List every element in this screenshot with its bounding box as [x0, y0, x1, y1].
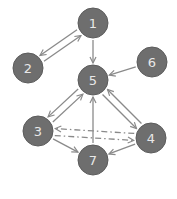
edge-5-to-4: [103, 94, 137, 128]
node-3[interactable]: 3: [23, 116, 53, 146]
nodes-layer: 1256347: [13, 8, 167, 175]
node-label: 4: [147, 131, 155, 146]
node-label: 6: [148, 55, 156, 70]
edge-4-to-7: [109, 144, 135, 154]
edge-3-to-4: [55, 136, 134, 141]
node-5[interactable]: 5: [78, 65, 108, 95]
edge-6-to-5: [109, 67, 135, 75]
node-1[interactable]: 1: [78, 8, 108, 38]
node-7[interactable]: 7: [78, 145, 108, 175]
node-2[interactable]: 2: [13, 53, 43, 83]
node-label: 7: [89, 153, 97, 168]
edge-4-to-5: [107, 90, 141, 124]
node-6[interactable]: 6: [137, 47, 167, 77]
node-label: 3: [34, 124, 42, 139]
node-label: 2: [24, 61, 32, 76]
edge-3-to-7: [53, 139, 78, 152]
graph-canvas: 1256347: [0, 0, 177, 199]
edge-4-to-3: [55, 129, 134, 134]
node-4[interactable]: 4: [136, 123, 166, 153]
node-label: 5: [89, 73, 97, 88]
node-label: 1: [89, 16, 97, 31]
